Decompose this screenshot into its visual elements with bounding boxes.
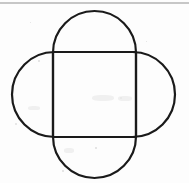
geometric-figure-svg — [0, 0, 189, 183]
figure-canvas — [0, 0, 189, 183]
figure-background — [0, 0, 189, 183]
